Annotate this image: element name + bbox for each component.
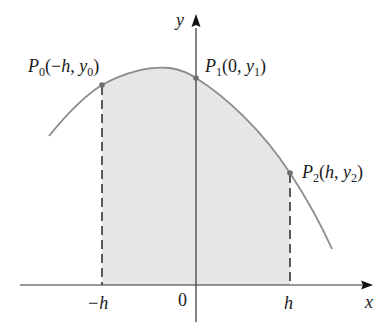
y-axis-arrow-icon xyxy=(192,14,201,27)
point-p2 xyxy=(287,170,293,176)
y-axis-label: y xyxy=(174,10,184,30)
simpson-rule-diagram: y x 0 −h h P0(−h, y0) P1(0, y1) P2(h, y2… xyxy=(0,0,389,329)
point-p1 xyxy=(193,75,199,81)
label-p2: P2(h, y2) xyxy=(301,162,363,185)
point-p0 xyxy=(99,82,105,88)
x-axis-label: x xyxy=(364,292,373,312)
tick-neg-h: −h xyxy=(87,293,108,313)
label-p1: P1(0, y1) xyxy=(204,56,266,79)
origin-label: 0 xyxy=(178,290,187,310)
label-p0: P0(−h, y0) xyxy=(27,56,99,79)
tick-h: h xyxy=(284,293,293,313)
